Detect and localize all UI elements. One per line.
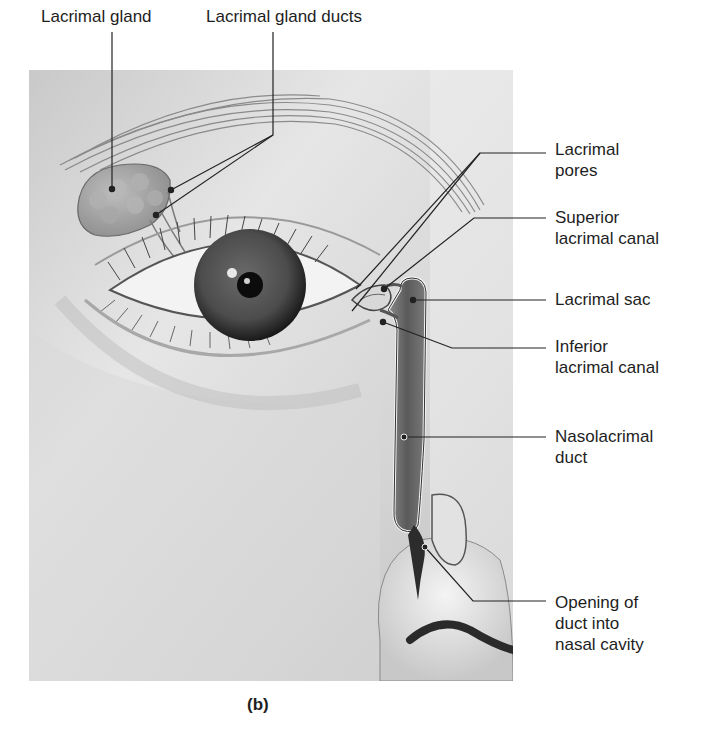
label-lacrimal-gland-ducts: Lacrimal gland ducts xyxy=(206,6,362,27)
label-opening-of-duct: Opening of duct into nasal cavity xyxy=(555,592,644,655)
label-lacrimal-pores: Lacrimal pores xyxy=(555,139,619,181)
label-inferior-lacrimal-canal: Inferior lacrimal canal xyxy=(555,336,659,378)
label-nasolacrimal-duct: Nasolacrimal duct xyxy=(555,426,653,468)
panel-label: (b) xyxy=(247,695,269,715)
label-lacrimal-gland: Lacrimal gland xyxy=(41,6,152,27)
pupil xyxy=(237,272,263,298)
label-lacrimal-sac: Lacrimal sac xyxy=(555,289,650,310)
face-panel xyxy=(29,70,513,681)
label-superior-lacrimal-canal: Superior lacrimal canal xyxy=(555,207,659,249)
